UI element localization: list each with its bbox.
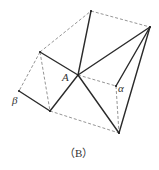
- figure-caption: （B）: [64, 147, 93, 159]
- solid-lines: [19, 11, 150, 133]
- label-a: A: [61, 71, 69, 83]
- label-beta: β: [11, 94, 18, 106]
- geometry-diagram: A α β （B）: [0, 0, 159, 170]
- label-alpha: α: [118, 82, 124, 94]
- dashed-lines: [19, 11, 150, 133]
- vertex-dots: [18, 10, 151, 134]
